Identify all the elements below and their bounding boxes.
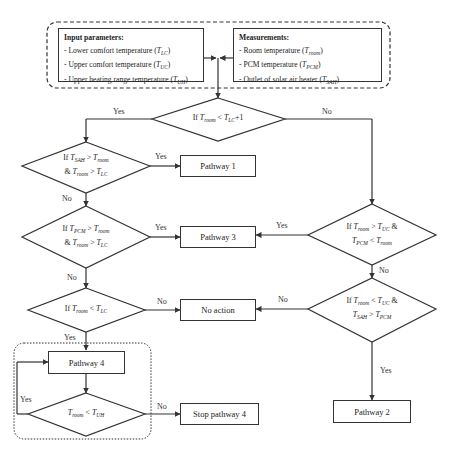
stop-pathway-4-box: Stop pathway 4 [180, 403, 259, 425]
decision-d1-condition: If Troom < TLC+1 [193, 112, 244, 126]
input-param-lc: - Lower comfort temperature (TLC) [64, 45, 198, 60]
edge-label-d2-yes: Yes [155, 152, 167, 161]
measurement-room: - Room temperature (Troom) [239, 45, 376, 60]
edge-label-d2-no: No [62, 194, 72, 203]
edge-label-d5-yes: Yes [20, 395, 32, 404]
decision-r2: If Troom < TUC & TSAH > TPCM [322, 295, 422, 323]
pathway-4-box: Pathway 4 [48, 351, 125, 374]
edge-label-r1-no: No [379, 266, 389, 275]
no-action-box: No action [180, 299, 256, 321]
edge-label-d5-no: No [157, 402, 167, 411]
input-parameters-panel: Input parameters: - Lower comfort temper… [58, 28, 204, 82]
decision-r2-line1: If Troom < TUC & [346, 295, 397, 309]
decision-r1-line1: If Troom > TUC & [346, 221, 397, 235]
input-parameters-heading: Input parameters: [64, 32, 198, 45]
decision-d4-condition: If Troom < TLC [65, 303, 107, 317]
input-param-uh: - Upper heating range temperature (TUH) [64, 74, 198, 89]
decision-d3-line2: & Troom > TLC [64, 237, 107, 251]
edge-label-r1-yes: Yes [276, 221, 288, 230]
edge-label-r2-yes: Yes [380, 366, 392, 375]
edge-label-d1-yes: Yes [113, 107, 125, 116]
input-param-uc: - Upper comfort temperature (TUC) [64, 59, 198, 74]
decision-d2-line2: & Troom > TLC [64, 166, 107, 180]
decision-d5-condition: Troom < TUH [68, 407, 104, 421]
edge-label-d1-no: No [322, 107, 332, 116]
measurement-sah: - Outlet of solar air heater (TSAH) [239, 74, 376, 89]
decision-d4: If Troom < TLC [40, 300, 132, 320]
edge-label-r2-no: No [278, 295, 288, 304]
edge-label-d3-yes: Yes [155, 223, 167, 232]
pathway-1-box: Pathway 1 [180, 155, 256, 177]
edge-label-d4-no: No [157, 297, 167, 306]
decision-d5: Troom < TUH [40, 404, 132, 424]
pathway-2-box: Pathway 2 [333, 400, 411, 423]
edge-label-d3-no: No [67, 273, 77, 282]
decision-d1: If Troom < TLC+1 [162, 108, 274, 130]
decision-r1: If Troom > TUC & TPCM < Troom [322, 221, 422, 249]
edge-label-d4-yes: Yes [64, 333, 76, 342]
measurement-pcm: - PCM temperature (TPCM) [239, 59, 376, 74]
decision-d3-line1: If TPCM > Troom [62, 223, 109, 237]
decision-d2-line1: If TSAH > Troom [63, 152, 109, 166]
decision-d2: If TSAH > Troom & Troom > TLC [36, 152, 136, 180]
measurements-panel: Measurements: - Room temperature (Troom)… [233, 28, 382, 82]
pathway-3-box: Pathway 3 [180, 226, 256, 248]
decision-r1-line2: TPCM < Troom [352, 235, 392, 249]
measurements-heading: Measurements: [239, 32, 376, 45]
decision-r2-line2: TSAH > TPCM [353, 309, 392, 323]
decision-d3: If TPCM > Troom & Troom > TLC [36, 223, 136, 251]
